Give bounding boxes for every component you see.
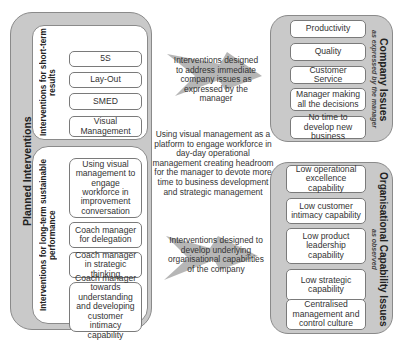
issue-productivity: Productivity [290, 20, 366, 38]
long-term-group: Interventions for long-term sustainable … [32, 146, 148, 324]
short-term-group: Interventions for short-term results 5S … [32, 25, 148, 140]
intervention-visual-engage: Using visual management to engage workfo… [69, 158, 142, 218]
capability-customer-intimacy: Low customer intimacy capability [286, 198, 366, 224]
center-description: Using visual management as a platform to… [152, 130, 274, 197]
issue-customer-service: Customer Service [290, 66, 366, 84]
capability-centralised: Centralised management and control cultu… [286, 299, 366, 330]
intervention-coach-customer: Coach manager towards understanding and … [69, 282, 142, 332]
issue-quality: Quality [290, 43, 366, 61]
intervention-smed: SMED [69, 93, 142, 110]
capability-issues-title: Organisational Capability Issues [378, 172, 389, 327]
capability-issues-panel: Low operational excellence capability Lo… [270, 162, 393, 334]
bottom-arrow-text: Interventions designed to develop underl… [165, 236, 267, 274]
issue-no-time: No time to develop new business [290, 116, 366, 139]
intervention-coach-delegation: Coach manager for delegation [69, 222, 142, 248]
top-arrow-text: Interventions designed to address immedi… [170, 56, 262, 104]
company-issues-title: Company Issues [378, 38, 390, 121]
company-issues-panel: Productivity Quality Customer Service Ma… [270, 15, 393, 142]
short-term-label: Interventions for short-term results [36, 26, 60, 139]
intervention-visual-management: Visual Management [69, 116, 142, 137]
capability-product-leadership: Low product leadership capability [286, 228, 366, 264]
issue-manager-decisions: Manager making all the decisions [290, 88, 366, 111]
intervention-layout: Lay-Out [69, 72, 142, 88]
capability-strategic: Low strategic capability [286, 269, 366, 301]
capability-issues-subtitle: as observed [371, 229, 378, 270]
company-issues-subtitle: as expressed by the manager [371, 30, 378, 128]
planned-interventions-panel: Planned Interventions Interventions for … [10, 12, 152, 330]
capability-operational: Low operational excellence capability [286, 165, 366, 193]
long-term-label: Interventions for long-term sustainable … [36, 147, 60, 323]
capability-issues-label: Organisational Capability Issues as obse… [368, 167, 392, 331]
company-issues-label: Company Issues as expressed by the manag… [368, 20, 392, 139]
intervention-5s: 5S [69, 51, 142, 67]
